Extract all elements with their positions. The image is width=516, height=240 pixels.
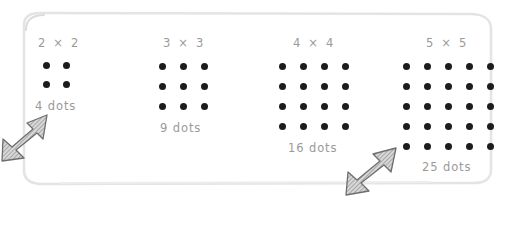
dot (201, 83, 208, 90)
dot (342, 123, 349, 130)
dot-grid-4x4 (272, 56, 356, 136)
dot (466, 63, 473, 70)
dot (63, 62, 70, 69)
dot (424, 103, 431, 110)
dot (403, 83, 410, 90)
dot (487, 103, 494, 110)
dot (279, 83, 286, 90)
dot (279, 123, 286, 130)
dot (159, 83, 166, 90)
dot (403, 103, 410, 110)
cursor-arrow-left[interactable] (0, 112, 58, 164)
dot (487, 143, 494, 150)
dot (63, 81, 70, 88)
dot (445, 143, 452, 150)
dot (43, 62, 50, 69)
dot (487, 63, 494, 70)
group-title-3x3: 3 × 3 (163, 36, 215, 50)
dot (466, 83, 473, 90)
dot (300, 83, 307, 90)
dot (159, 63, 166, 70)
dot (466, 143, 473, 150)
dot (466, 103, 473, 110)
dot (321, 103, 328, 110)
dot-grid-5x5 (396, 56, 501, 156)
square-group-3x3: 3 × 3 9 dots (152, 36, 215, 135)
group-title-5x5: 5 × 5 (426, 36, 501, 50)
dot (180, 103, 187, 110)
dot (424, 143, 431, 150)
dot (424, 63, 431, 70)
dot-grid-3x3 (152, 56, 215, 116)
group-label-2x2: 4 dots (35, 99, 81, 113)
dot (201, 103, 208, 110)
group-label-5x5: 25 dots (422, 160, 501, 174)
dot (321, 123, 328, 130)
dot (342, 63, 349, 70)
dot (445, 123, 452, 130)
dot (321, 63, 328, 70)
dot (424, 83, 431, 90)
dot (403, 63, 410, 70)
dot (445, 63, 452, 70)
dot (279, 103, 286, 110)
dot (466, 123, 473, 130)
square-group-4x4: 4 × 4 16 dots (272, 36, 356, 155)
dot (424, 123, 431, 130)
cursor-arrow-right[interactable] (341, 146, 403, 198)
dot-grid-2x2 (36, 56, 81, 94)
dot (300, 123, 307, 130)
dot (279, 63, 286, 70)
group-label-3x3: 9 dots (160, 121, 215, 135)
dot (300, 103, 307, 110)
dot (342, 83, 349, 90)
dot (342, 103, 349, 110)
group-title-2x2: 2 × 2 (38, 36, 81, 50)
dot (487, 83, 494, 90)
dot (43, 81, 50, 88)
dot (180, 83, 187, 90)
dot (180, 63, 187, 70)
dot (159, 103, 166, 110)
square-group-2x2: 2 × 2 4 dots (36, 36, 81, 113)
dot (487, 123, 494, 130)
dot (201, 63, 208, 70)
dot (445, 103, 452, 110)
dot (445, 83, 452, 90)
square-group-5x5: 5 × 5 25 dots (396, 36, 501, 174)
dot (300, 63, 307, 70)
dot (403, 143, 410, 150)
dot (321, 83, 328, 90)
group-title-4x4: 4 × 4 (293, 36, 356, 50)
dot (403, 123, 410, 130)
